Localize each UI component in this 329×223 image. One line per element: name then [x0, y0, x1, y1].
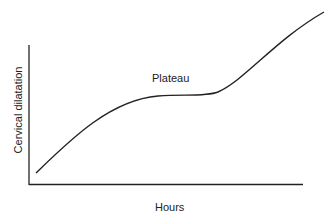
x-axis-label: Hours	[155, 201, 185, 213]
plateau-label: Plateau	[152, 72, 189, 84]
dilatation-curve	[36, 12, 324, 173]
y-axis-label: Cervical dilatation	[12, 67, 24, 154]
chart: Plateau Hours Cervical dilatation	[0, 0, 329, 223]
